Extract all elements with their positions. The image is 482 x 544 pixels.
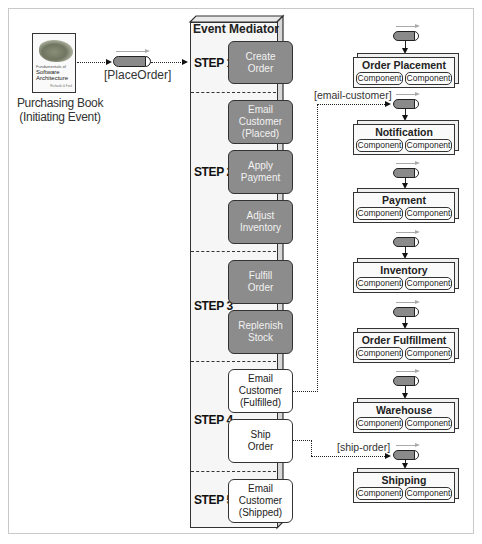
queue-cap: [414, 100, 418, 108]
component-box[interactable]: Component: [356, 487, 403, 500]
step-divider: [191, 361, 276, 362]
flow-arrow-icon: [396, 163, 416, 164]
queue-cap: [414, 238, 418, 246]
task-fulfill-order[interactable]: FulfillOrder: [228, 260, 293, 304]
email-customer-channel-label: [email-customer]: [314, 89, 392, 101]
initiating-event-label-line1: Purchasing Book: [10, 96, 110, 110]
task-line: Ship: [248, 429, 274, 441]
component-box[interactable]: Component: [356, 72, 403, 85]
component-box[interactable]: Component: [405, 207, 452, 220]
arrow-right-icon: [385, 453, 391, 459]
component-box[interactable]: Component: [356, 277, 403, 290]
initiating-event-label-line2: (Initiating Event): [10, 110, 110, 124]
service-shipping[interactable]: ShippingComponentComponent: [353, 472, 455, 503]
task-email-customer-shipped[interactable]: EmailCustomer(Shipped): [228, 479, 293, 523]
queue-cap: [414, 169, 418, 177]
initiating-event-label: Purchasing Book (Initiating Event): [10, 96, 110, 124]
service-queue[interactable]: [393, 237, 419, 247]
flow-arrow-icon: [396, 94, 416, 95]
service-name: Warehouse: [353, 404, 455, 416]
task-line: Payment: [241, 172, 280, 184]
component-box[interactable]: Component: [405, 139, 452, 152]
step-divider: [191, 471, 276, 472]
task-line: Fulfill: [248, 270, 274, 282]
connector-email-customer-h1: [293, 391, 318, 392]
component-box[interactable]: Component: [356, 207, 403, 220]
task-line: Customer: [239, 495, 282, 507]
service-name: Order Placement: [353, 59, 455, 71]
task-ship-order[interactable]: ShipOrder: [228, 419, 293, 463]
component-box[interactable]: Component: [356, 139, 403, 152]
component-box[interactable]: Component: [405, 72, 452, 85]
service-queue[interactable]: [393, 450, 419, 460]
queue-cap: [414, 308, 418, 316]
arrow-right-icon: [385, 101, 391, 107]
book-cover-image: Fundamentals of Software Architecture Ri…: [32, 33, 76, 93]
task-line: (Placed): [239, 128, 282, 140]
task-line: Order: [248, 441, 274, 453]
service-inventory[interactable]: InventoryComponentComponent: [353, 262, 455, 293]
service-name: Shipping: [353, 474, 455, 486]
task-apply-payment[interactable]: ApplyPayment: [228, 150, 293, 194]
queue-cap: [414, 377, 418, 385]
step-label-2: STEP 2: [194, 165, 233, 179]
service-notification[interactable]: NotificationComponentComponent: [353, 124, 455, 155]
service-queue[interactable]: [393, 31, 419, 41]
service-queue[interactable]: [393, 376, 419, 386]
step-label-3: STEP 3: [194, 299, 233, 313]
component-box[interactable]: Component: [405, 417, 452, 430]
service-queue[interactable]: [393, 168, 419, 178]
task-line: Customer: [239, 116, 282, 128]
connector-email-customer-h2: [317, 104, 385, 105]
task-email-customer-placed[interactable]: EmailCustomer(Placed): [228, 100, 293, 144]
service-order-placement[interactable]: Order PlacementComponentComponent: [353, 57, 455, 88]
step-divider: [191, 251, 276, 252]
task-email-customer-fulfilled[interactable]: EmailCustomer(Fulfilled): [228, 369, 293, 413]
service-queue[interactable]: [393, 307, 419, 317]
ship-order-channel-label: [ship-order]: [337, 441, 390, 453]
service-queue[interactable]: [393, 99, 419, 109]
task-create-order[interactable]: CreateOrder: [228, 41, 293, 84]
component-box[interactable]: Component: [405, 487, 452, 500]
queue-cap: [414, 451, 418, 459]
queue-cap: [145, 57, 150, 66]
connector-email-customer-v: [317, 104, 318, 392]
flow-arrow-icon: [396, 302, 416, 303]
connector-ship-order-v: [311, 440, 312, 456]
task-line: Email: [239, 373, 282, 385]
service-name: Notification: [353, 126, 455, 138]
service-payment[interactable]: PaymentComponentComponent: [353, 192, 455, 223]
connector-queue-to-mediator: [151, 62, 183, 63]
task-line: Create: [245, 51, 275, 63]
placeorder-queue[interactable]: [113, 56, 151, 67]
service-name: Order Fulfillment: [353, 334, 455, 346]
task-line: Apply: [241, 160, 280, 172]
cover-art: [39, 40, 73, 62]
service-name: Payment: [353, 194, 455, 206]
step-label-4: STEP 4: [194, 413, 233, 427]
service-warehouse[interactable]: WarehouseComponentComponent: [353, 402, 455, 433]
task-line: (Fulfilled): [239, 397, 282, 409]
mediator-title: Event Mediator: [190, 22, 282, 36]
task-line: Order: [245, 63, 275, 75]
step-label-5: STEP 5: [194, 493, 233, 507]
task-replenish-stock[interactable]: ReplenishStock: [228, 310, 293, 354]
flow-arrow-icon: [396, 371, 416, 372]
component-box[interactable]: Component: [405, 347, 452, 360]
connector-ship-order-h1: [293, 440, 312, 441]
component-box[interactable]: Component: [405, 277, 452, 290]
component-box[interactable]: Component: [356, 347, 403, 360]
flow-arrow-icon: [116, 51, 146, 52]
flow-arrow-icon: [396, 232, 416, 233]
task-adjust-inventory[interactable]: AdjustInventory: [228, 200, 293, 244]
step-divider: [191, 92, 276, 93]
connector-book-to-queue: [77, 62, 107, 63]
cover-author: Richards & Ford: [50, 84, 72, 88]
flow-arrow-icon: [396, 26, 416, 27]
service-order-fulfillment[interactable]: Order FulfillmentComponentComponent: [353, 332, 455, 363]
task-line: Customer: [239, 385, 282, 397]
flow-arrow-icon: [396, 445, 416, 446]
component-box[interactable]: Component: [356, 417, 403, 430]
step-label-1: STEP 1: [194, 56, 233, 70]
connector-ship-order-h2: [311, 456, 385, 457]
